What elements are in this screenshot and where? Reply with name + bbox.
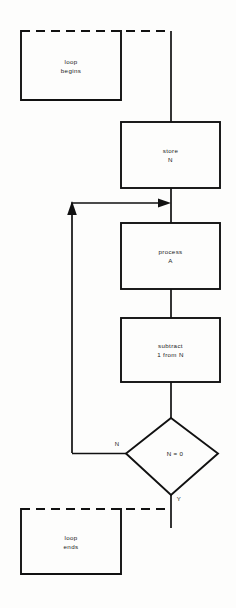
process-a-label-line1: process — [158, 248, 182, 255]
node-decision: N = 0 — [126, 418, 218, 495]
subtract-label-line2: 1 from N — [157, 351, 184, 358]
node-loop-begins: loop begins — [21, 31, 171, 100]
node-subtract: subtract 1 from N — [121, 318, 220, 382]
loop-ends-bracket — [21, 509, 121, 574]
branch-label-no: N — [115, 441, 120, 447]
feedback-arrowhead-right — [158, 198, 171, 207]
feedback-loop-path — [67, 198, 171, 453]
loop-begins-label-line2: begins — [61, 67, 81, 74]
node-loop-ends: loop ends — [21, 509, 171, 574]
feedback-return-line — [72, 203, 167, 453]
loop-ends-label-line1: loop — [64, 534, 77, 541]
store-n-label-line2: N — [168, 156, 173, 163]
subtract-label-line1: subtract — [158, 342, 183, 349]
decision-label: N = 0 — [167, 450, 184, 457]
loop-ends-label-line2: ends — [64, 543, 79, 550]
loop-begins-bracket — [21, 31, 121, 100]
node-process-a: process A — [121, 223, 220, 289]
node-store-n: store N — [121, 122, 220, 188]
loop-begins-label-line1: loop — [64, 58, 77, 65]
store-n-label-line1: store — [163, 147, 179, 154]
flowchart-svg: loop begins store N process A — [0, 0, 236, 608]
branch-label-yes: Y — [177, 496, 181, 502]
process-a-label-line2: A — [168, 257, 173, 264]
flowchart-canvas: loop begins store N process A — [0, 0, 236, 608]
